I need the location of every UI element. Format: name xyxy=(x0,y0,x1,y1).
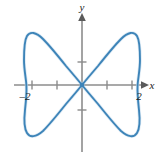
x-tick-label-minus2: –2 xyxy=(19,90,32,102)
y-axis-arrowhead xyxy=(78,13,86,21)
origin-node-dot xyxy=(80,83,85,88)
figure-container: x y –2 2 xyxy=(0,0,164,161)
x-axis-arrowhead xyxy=(141,81,149,89)
y-axis-label: y xyxy=(79,1,85,13)
x-axis-label: x xyxy=(149,79,155,91)
x-tick-label-plus2: 2 xyxy=(136,90,142,102)
plot-canvas: x y –2 2 xyxy=(0,0,164,161)
labels-group: x y –2 2 xyxy=(19,1,155,102)
